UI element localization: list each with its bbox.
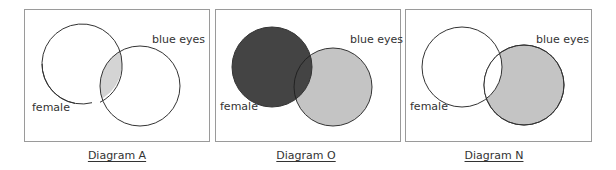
diagram-n-label-female: female	[410, 100, 448, 113]
diagram-o	[216, 10, 401, 142]
diagram-n-label-blue-eyes: blue eyes	[536, 33, 589, 46]
diagram-n-caption: Diagram N	[465, 149, 524, 162]
diagram-o-label-female: female	[220, 100, 258, 113]
diagram-o-caption: Diagram O	[276, 149, 335, 162]
diagram-a-label-blue-eyes: blue eyes	[152, 33, 205, 46]
venn-diagrams	[0, 0, 616, 170]
diagram-n	[406, 10, 592, 142]
diagram-a-caption: Diagram A	[88, 149, 146, 162]
diagram-a-label-female: female	[32, 101, 70, 114]
diagram-a	[25, 10, 210, 142]
diagram-o-label-blue-eyes: blue eyes	[350, 33, 403, 46]
